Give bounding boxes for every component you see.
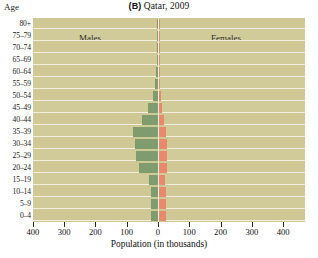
- x-axis-tick-label: 0: [143, 227, 173, 237]
- bar-female: [159, 67, 160, 77]
- age-row-band: [33, 54, 305, 65]
- bar-male: [142, 115, 158, 125]
- y-axis-tick-label: 65–69: [13, 55, 32, 64]
- y-axis-tick-label: 20–24: [13, 163, 32, 172]
- x-axis-title: Population (in thousands): [0, 239, 318, 249]
- y-axis-tick-label: 10–14: [13, 187, 32, 196]
- age-row-band: [33, 42, 305, 53]
- panel-tag: (B): [129, 1, 142, 11]
- bar-male: [156, 67, 158, 77]
- y-axis-tick-label: 70–74: [13, 43, 32, 52]
- bar-female: [159, 103, 162, 113]
- chart-title-text: Qatar, 2009: [144, 1, 190, 11]
- x-axis-tick-label: 400: [18, 227, 48, 237]
- y-axis-tick-label: 50–54: [13, 91, 32, 100]
- bar-male: [157, 43, 158, 53]
- bar-male: [157, 31, 158, 41]
- bar-female: [159, 211, 166, 221]
- bar-female: [159, 79, 160, 89]
- bar-female: [159, 31, 160, 41]
- age-row-band: [33, 102, 305, 113]
- age-row-band: [33, 150, 305, 161]
- x-axis-tick-label: 300: [49, 227, 79, 237]
- bar-female: [159, 127, 166, 137]
- bar-male: [149, 175, 158, 185]
- y-axis-tick-label: 45–49: [13, 103, 32, 112]
- bar-male: [135, 139, 158, 149]
- y-axis-tick-label: 15–19: [13, 175, 32, 184]
- age-row-band: [33, 66, 305, 77]
- x-axis-tick-label: 200: [206, 227, 236, 237]
- bar-male: [155, 79, 158, 89]
- y-axis-tick-label: 75–79: [13, 31, 32, 40]
- age-row-band: [33, 210, 305, 221]
- y-axis-tick-label: 55–59: [13, 79, 32, 88]
- age-row-band: [33, 186, 305, 197]
- bar-male: [136, 151, 158, 161]
- bar-male: [139, 163, 158, 173]
- bar-female: [159, 199, 166, 209]
- y-axis-labels: 80+75–7970–7465–6960–6455–5950–5445–4940…: [0, 18, 31, 222]
- y-axis-tick-label: 40–44: [13, 115, 32, 124]
- bar-female: [159, 43, 160, 53]
- x-axis-tick-label: 100: [112, 227, 142, 237]
- bar-female: [159, 163, 167, 173]
- bar-female: [159, 139, 167, 149]
- y-axis-tick-label: 5–9: [20, 199, 31, 208]
- bar-male: [157, 19, 158, 29]
- age-row-band: [33, 138, 305, 149]
- y-axis-tick-label: 60–64: [13, 67, 32, 76]
- x-axis-tick-label: 200: [80, 227, 110, 237]
- age-row-band: [33, 90, 305, 101]
- population-pyramid-figure: Age (B) Qatar, 2009 80+75–7970–7465–6960…: [0, 0, 318, 258]
- bar-female: [159, 91, 161, 101]
- bar-female: [159, 55, 160, 65]
- x-axis-tick-label: 100: [174, 227, 204, 237]
- age-row-band: [33, 18, 305, 29]
- bar-female: [159, 175, 165, 185]
- x-axis-tick-label: 300: [237, 227, 267, 237]
- bar-male: [157, 55, 158, 65]
- bar-male: [151, 211, 158, 221]
- bar-male: [148, 103, 158, 113]
- bar-female: [159, 187, 166, 197]
- bar-male: [133, 127, 158, 137]
- age-row-band: [33, 198, 305, 209]
- age-row-band: [33, 126, 305, 137]
- x-axis-tick-label: 400: [268, 227, 298, 237]
- bar-male: [151, 187, 158, 197]
- y-axis-tick-label: 30–34: [13, 139, 32, 148]
- y-axis-tick-label: 0–4: [20, 211, 31, 220]
- age-row-band: [33, 78, 305, 89]
- bar-female: [159, 151, 167, 161]
- age-row-band: [33, 114, 305, 125]
- age-row-band: [33, 162, 305, 173]
- y-axis-tick-label: 35–39: [13, 127, 32, 136]
- age-row-band: [33, 174, 305, 185]
- bar-female: [159, 115, 164, 125]
- y-axis-tick-label: 25–29: [13, 151, 32, 160]
- y-axis-tick-label: 80+: [19, 19, 31, 28]
- bar-female: [159, 19, 160, 29]
- chart-title: (B) Qatar, 2009: [0, 1, 318, 11]
- bar-male: [151, 199, 158, 209]
- age-row-band: [33, 30, 305, 41]
- plot-area: Males Females: [33, 18, 305, 222]
- bar-male: [153, 91, 158, 101]
